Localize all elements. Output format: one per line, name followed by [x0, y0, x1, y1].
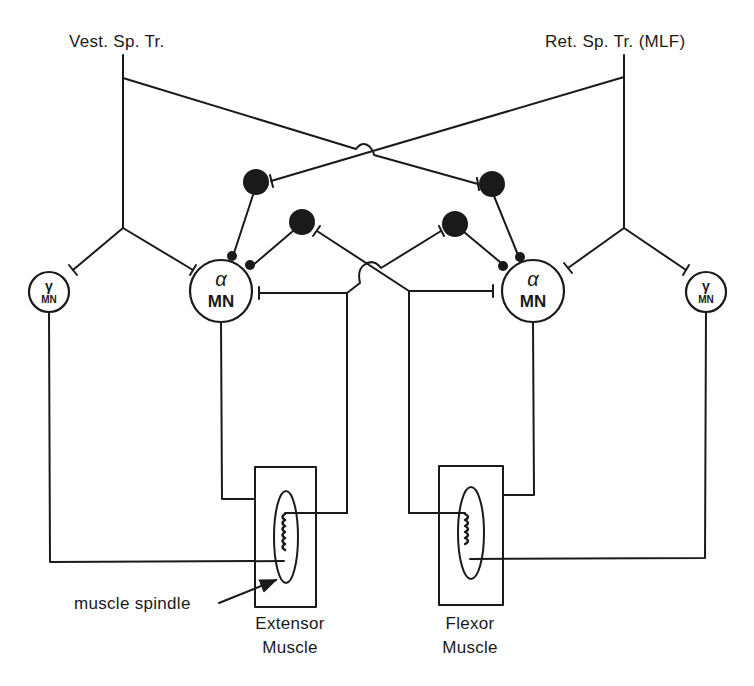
flexor-spindle	[458, 487, 484, 579]
extensor-label-line1: Extensor	[245, 612, 335, 636]
reticulospinal-tract-label: Ret. Sp. Tr. (MLF)	[545, 32, 685, 52]
inhibitory-synapse	[245, 260, 255, 270]
reflex-circuit-diagram: α MN α MN γ MN γ MN	[0, 0, 754, 686]
muscle-spindle-label: muscle spindle	[74, 594, 191, 614]
alpha-efferent-right	[503, 322, 534, 495]
alpha-symbol-right: α	[527, 268, 539, 290]
alpha-efferent-left	[221, 322, 255, 499]
extensor-spindle-coil	[283, 514, 286, 550]
excitatory-terminal	[564, 263, 572, 273]
flexor-spindle-coil	[465, 514, 468, 544]
flexor-muscle-label: Flexor Muscle	[430, 612, 510, 660]
vestibulospinal-tract-label: Vest. Sp. Tr.	[69, 32, 165, 52]
gamma-symbol-left: γ	[45, 278, 53, 294]
excitatory-terminal	[683, 265, 689, 275]
inhibitory-synapse	[227, 251, 237, 261]
gamma-label-left: MN	[41, 294, 57, 305]
extensor-muscle-label: Extensor Muscle	[245, 612, 335, 660]
inhibitory-synapse	[498, 261, 508, 271]
interneuron-upper-right	[479, 171, 505, 197]
interneuron-lower-right	[442, 211, 468, 237]
flexor-label-line2: Muscle	[430, 636, 510, 660]
ia-afferent-collaterals	[259, 226, 493, 513]
gamma-label-right: MN	[698, 294, 714, 305]
excitatory-terminal	[477, 178, 479, 190]
alpha-symbol-left: α	[215, 268, 227, 290]
interneuron-lower-left	[289, 209, 315, 235]
spindle-pointer-arrow	[219, 580, 276, 603]
gamma-symbol-right: γ	[702, 278, 710, 294]
interneuron-upper-left	[243, 169, 269, 195]
gamma-efferent-right	[470, 312, 706, 559]
extensor-spindle	[274, 491, 298, 583]
alpha-label-left: MN	[208, 292, 234, 311]
flexor-label-line1: Flexor	[430, 612, 510, 636]
alpha-label-right: MN	[520, 292, 546, 311]
extensor-label-line2: Muscle	[245, 636, 335, 660]
vestibulospinal-tract	[69, 55, 479, 275]
excitatory-terminal	[313, 226, 320, 236]
gamma-efferent-left	[49, 312, 284, 562]
